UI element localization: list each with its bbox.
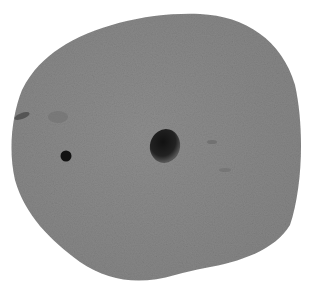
small-hole — [61, 151, 72, 162]
dark-smudge — [219, 168, 231, 172]
stone-image — [0, 0, 316, 306]
dark-smudge — [48, 111, 68, 123]
dark-smudge — [207, 140, 217, 144]
